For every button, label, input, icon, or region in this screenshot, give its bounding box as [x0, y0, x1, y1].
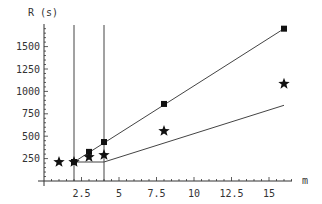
star-marker — [53, 156, 64, 167]
y-tick-label: 1250 — [16, 64, 40, 75]
x-tick-label: 7.5 — [147, 188, 165, 199]
star-marker — [278, 78, 289, 89]
x-tick-label: 15 — [263, 188, 275, 199]
square-marker — [281, 26, 287, 32]
y-tick-label: 1000 — [16, 86, 40, 97]
x-tick-label: 5 — [116, 188, 122, 199]
square-marker — [101, 139, 107, 145]
x-axis-label: m — [302, 175, 308, 186]
star-marker — [83, 151, 94, 162]
series-markers — [53, 26, 289, 167]
square-marker — [161, 101, 167, 107]
y-tick-label: 750 — [22, 108, 40, 119]
scatter-line-chart: 2.557.51012.515250500750100012501500 R (… — [0, 0, 322, 204]
y-tick-label: 1500 — [16, 41, 40, 52]
y-axis-label: R (s) — [28, 7, 58, 18]
y-tick-label: 250 — [22, 153, 40, 164]
x-tick-label: 12.5 — [219, 188, 243, 199]
star-marker — [158, 125, 169, 136]
y-tick-label: 500 — [22, 131, 40, 142]
x-tick-label: 2.5 — [72, 188, 90, 199]
x-tick-label: 10 — [188, 188, 200, 199]
